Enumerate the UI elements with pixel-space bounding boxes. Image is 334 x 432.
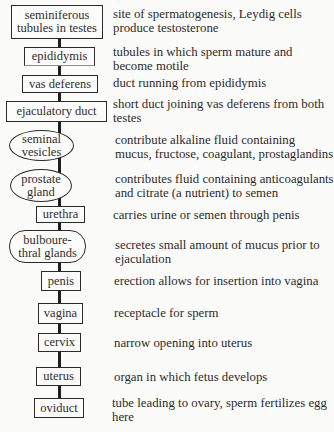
node-epididymis: epididymis — [24, 47, 95, 66]
desc-seminal-vesicles: contribute alkaline fluid containing muc… — [115, 134, 334, 161]
desc-ejaculatory-duct: short duct joining vas deferens from bot… — [113, 98, 332, 125]
node-label: epididymis — [32, 50, 88, 63]
node-ejaculatory-duct: ejaculatory duct — [6, 101, 107, 122]
node-seminal-vesicles: seminalvesicles — [9, 130, 74, 161]
node-label: prostategland — [21, 173, 61, 199]
node-label: vas deferens — [29, 78, 91, 91]
node-uterus: uterus — [36, 367, 81, 386]
node-label: bulboure-thral glands — [18, 234, 77, 260]
node-label: seminalvesicles — [22, 133, 62, 159]
node-prostate-gland: prostategland — [10, 169, 72, 202]
node-label: vagina — [44, 307, 77, 320]
desc-epididymis: tubules in which sperm mature and become… — [113, 46, 332, 73]
node-label: seminiferoustubules in testes — [17, 9, 97, 35]
node-vas-deferens: vas deferens — [22, 75, 98, 93]
node-label: uterus — [43, 370, 74, 383]
node-seminiferous-tubules: seminiferoustubules in testes — [11, 5, 103, 39]
node-urethra: urethra — [36, 206, 85, 223]
node-label: urethra — [43, 208, 78, 221]
desc-penis: erection allows for insertion into vagin… — [114, 275, 333, 289]
desc-urethra: carries urine or semen through penis — [113, 209, 332, 223]
node-oviduct: oviduct — [34, 398, 84, 418]
node-label: oviduct — [40, 402, 78, 415]
desc-prostate-gland: contributes fluid containing anticoagula… — [115, 173, 334, 200]
node-vagina: vagina — [38, 303, 83, 324]
desc-oviduct: tube leading to ovary, sperm fertilizes … — [112, 397, 331, 424]
node-cervix: cervix — [38, 333, 81, 352]
desc-seminiferous-tubules: site of spermatogenesis, Leydig cells pr… — [113, 8, 332, 35]
node-label: ejaculatory duct — [16, 105, 96, 118]
node-penis: penis — [41, 271, 81, 291]
desc-vas-deferens: duct running from epididymis — [113, 77, 332, 91]
desc-vagina: receptacle for sperm — [114, 307, 333, 321]
desc-cervix: narrow opening into uterus — [114, 337, 333, 351]
desc-bulbourethral-glands: secretes small amount of mucus prior to … — [115, 239, 334, 266]
node-label: cervix — [44, 336, 75, 349]
node-label: penis — [48, 275, 74, 288]
node-bulbourethral-glands: bulboure-thral glands — [9, 230, 86, 263]
desc-uterus: organ in which fetus develops — [114, 371, 333, 385]
